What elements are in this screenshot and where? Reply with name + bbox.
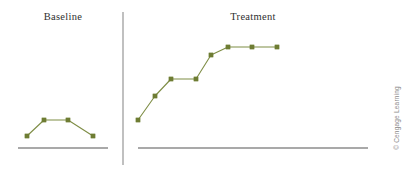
data-point-marker — [91, 134, 95, 138]
data-point-marker — [136, 118, 140, 122]
data-point-marker — [194, 77, 198, 81]
figure-canvas: Baseline Treatment © Cengage Learning — [0, 0, 404, 172]
data-point-marker — [25, 134, 29, 138]
plot-area — [0, 0, 404, 172]
data-point-marker — [42, 118, 46, 122]
data-point-marker — [66, 118, 70, 122]
data-point-marker — [226, 45, 230, 49]
copyright-credit: © Cengage Learning — [389, 70, 403, 166]
data-point-marker — [153, 94, 157, 98]
data-point-marker — [209, 53, 213, 57]
data-line-treatment — [138, 47, 277, 120]
data-series-group — [25, 45, 279, 138]
data-line-baseline — [27, 120, 93, 136]
copyright-credit-text: © Cengage Learning — [393, 86, 400, 150]
data-point-marker — [275, 45, 279, 49]
data-point-marker — [250, 45, 254, 49]
data-point-marker — [169, 77, 173, 81]
